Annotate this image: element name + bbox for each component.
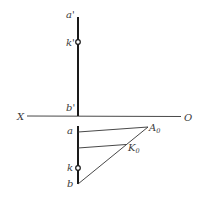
label-A0: A0: [148, 122, 160, 135]
label-b: b: [67, 178, 73, 189]
label-b-prime: b': [66, 102, 75, 113]
label-K0-subscript: 0: [135, 147, 139, 155]
label-A0-main: A: [148, 122, 156, 133]
axis-label-o: O: [184, 112, 192, 123]
label-k: k: [67, 162, 73, 173]
label-A0-subscript: 0: [156, 127, 160, 135]
label-k-prime: k': [66, 37, 75, 48]
projection-diagram: X O a' k' b' a k b A0 K0: [0, 0, 203, 198]
point-k: [76, 166, 81, 171]
label-K0: K0: [127, 142, 140, 155]
line-k-level-to-K0: [78, 145, 126, 149]
line-a-to-A0: [78, 127, 148, 132]
point-k-prime: [76, 40, 81, 45]
x-o-axis-line: [27, 116, 181, 117]
label-a: a: [67, 125, 73, 136]
axis-label-x: X: [16, 111, 25, 122]
label-a-prime: a': [66, 9, 75, 20]
hypotenuse-b-to-A0: [78, 127, 148, 184]
